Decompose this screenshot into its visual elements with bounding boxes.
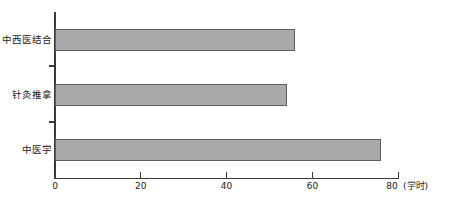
x-axis-label-80: 80 xyxy=(386,181,397,192)
y-axis-tick xyxy=(49,65,55,67)
x-axis-tick-60 xyxy=(312,172,313,178)
x-axis-unit-label: (学时) xyxy=(403,181,428,192)
bar-zhenjiu-tuina xyxy=(55,84,287,106)
x-axis-tick-40 xyxy=(226,172,227,178)
bar-chart: 0 20 40 60 80 (学时) 中西医结合 针灸推拿 中医学 xyxy=(0,0,450,210)
category-label-zhongxiyi-jiehe: 中西医结合 xyxy=(0,34,52,46)
bar-zhongxiyi-jiehe xyxy=(55,29,295,51)
x-axis-label-60: 60 xyxy=(307,181,318,192)
x-axis-label-40: 40 xyxy=(221,181,232,192)
y-axis-tick xyxy=(49,121,55,123)
x-axis-label-0: 0 xyxy=(52,181,58,192)
x-axis-tick-0 xyxy=(54,172,55,178)
category-label-zhenjiu-tuina: 针灸推拿 xyxy=(0,89,52,101)
category-label-zhongyixue: 中医学 xyxy=(0,144,52,156)
bar-zhongyixue xyxy=(55,139,381,161)
x-axis-label-20: 20 xyxy=(135,181,146,192)
x-axis-tick-80 xyxy=(398,172,399,178)
x-axis-tick-20 xyxy=(140,172,141,178)
